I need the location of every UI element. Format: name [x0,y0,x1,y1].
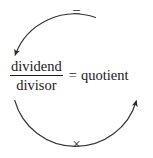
top-operator-equals: = [0,5,153,20]
fraction-numerator-dividend: dividend [10,58,63,75]
division-circle-diagram: = × dividend divisor = quotient [0,0,153,158]
equation-result-quotient: quotient [81,67,129,84]
top-arc-path [15,14,95,55]
fraction-denominator-divisor: divisor [15,76,57,93]
fraction: dividend divisor [10,58,63,93]
equation-group: dividend divisor = quotient [0,58,153,93]
bottom-operator-multiply: × [0,138,153,152]
equation-equals-sign: = [69,67,77,84]
